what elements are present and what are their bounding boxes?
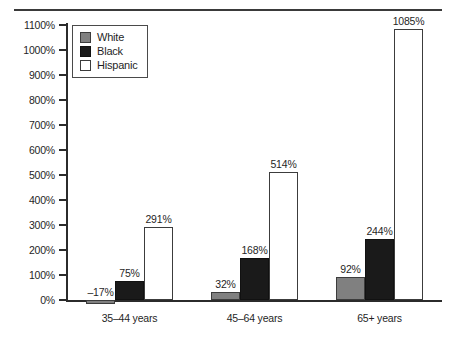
y-axis-tick-label: 900% (0, 70, 55, 81)
y-axis-tick (59, 24, 66, 26)
legend-label-black: Black (97, 46, 123, 57)
bar (86, 300, 115, 304)
y-axis-tick-label: 0% (0, 295, 55, 306)
bar (336, 277, 365, 300)
y-axis-line (66, 23, 68, 302)
y-axis-tick (59, 74, 66, 76)
y-axis-tick-label: 1100% (0, 20, 55, 31)
bar-value-label: 514% (256, 159, 311, 170)
y-axis-tick-label: 1000% (0, 45, 55, 56)
bar (269, 172, 298, 301)
bar-value-label: 291% (131, 214, 186, 225)
y-axis-tick-label: 800% (0, 95, 55, 106)
y-axis-tick-label: 200% (0, 245, 55, 256)
y-axis-tick-label: 500% (0, 170, 55, 181)
y-axis-tick-label: 700% (0, 120, 55, 131)
y-axis-tick-label: 100% (0, 270, 55, 281)
bar (240, 258, 269, 300)
legend-item-white: White (80, 31, 138, 44)
x-axis-group-label: 35–44 years (67, 313, 192, 324)
x-axis-group-label: 45–64 years (192, 313, 317, 324)
y-axis-tick (59, 99, 66, 101)
black-swatch-icon (80, 46, 91, 57)
y-axis-tick (59, 174, 66, 176)
y-axis-tick-label: 300% (0, 220, 55, 231)
y-axis-tick (59, 149, 66, 151)
y-axis-tick (59, 49, 66, 51)
white-swatch-icon (80, 60, 91, 71)
bar-value-label: 1085% (381, 16, 436, 27)
bar (365, 239, 394, 300)
y-axis-tick (59, 124, 66, 126)
gray-swatch-icon (80, 32, 91, 43)
legend-label-white: White (97, 32, 124, 43)
bar (144, 227, 173, 300)
y-axis-tick (59, 199, 66, 201)
bar (211, 292, 240, 300)
y-axis-tick (59, 224, 66, 226)
x-axis-line (66, 300, 442, 302)
y-axis-tick (59, 274, 66, 276)
legend-item-black: Black (80, 45, 138, 58)
bar-chart-plot-area: 1100%1000%900%800%700%600%500%400%300%20… (0, 0, 455, 342)
y-axis-tick (59, 299, 66, 301)
chart-legend: White Black Hispanic (72, 25, 148, 78)
bar (394, 29, 423, 300)
y-axis-tick (59, 249, 66, 251)
legend-item-hispanic: Hispanic (80, 59, 138, 72)
legend-label-hispanic: Hispanic (97, 60, 138, 71)
x-axis-group-label: 65+ years (317, 313, 442, 324)
y-axis-tick-label: 600% (0, 145, 55, 156)
y-axis-tick-label: 400% (0, 195, 55, 206)
bar (115, 281, 144, 300)
